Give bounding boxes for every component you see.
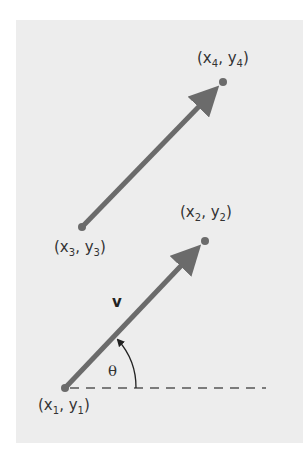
point-p4-label: (x4, y4) <box>197 49 249 69</box>
point-p1-label: (x1, y1) <box>38 396 90 416</box>
point-p2-label: (x2, y2) <box>180 203 232 223</box>
point-p2 <box>201 237 209 245</box>
point-p1 <box>61 384 69 392</box>
point-p4 <box>219 78 227 86</box>
vector-v-arrow <box>65 250 196 388</box>
point-p3-label: (x3, y3) <box>54 238 106 258</box>
angle-theta-label: θ <box>108 362 117 380</box>
vector-v-label: v <box>112 293 122 311</box>
vector-diagram: θ v (x4, y4) (x2, y2) (x3, y3) (x1, y1) <box>0 0 303 450</box>
point-p3 <box>78 223 86 231</box>
angle-arc <box>118 340 136 388</box>
